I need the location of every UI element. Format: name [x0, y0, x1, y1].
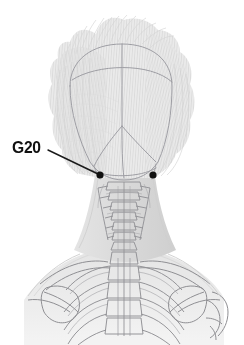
point-marker-g20-left[interactable] [96, 171, 103, 178]
point-label-g20: G20 [12, 139, 41, 156]
anatomy-illustration [0, 0, 244, 345]
point-marker-g20-right[interactable] [149, 171, 156, 178]
acupuncture-figure: G20 [0, 0, 244, 345]
